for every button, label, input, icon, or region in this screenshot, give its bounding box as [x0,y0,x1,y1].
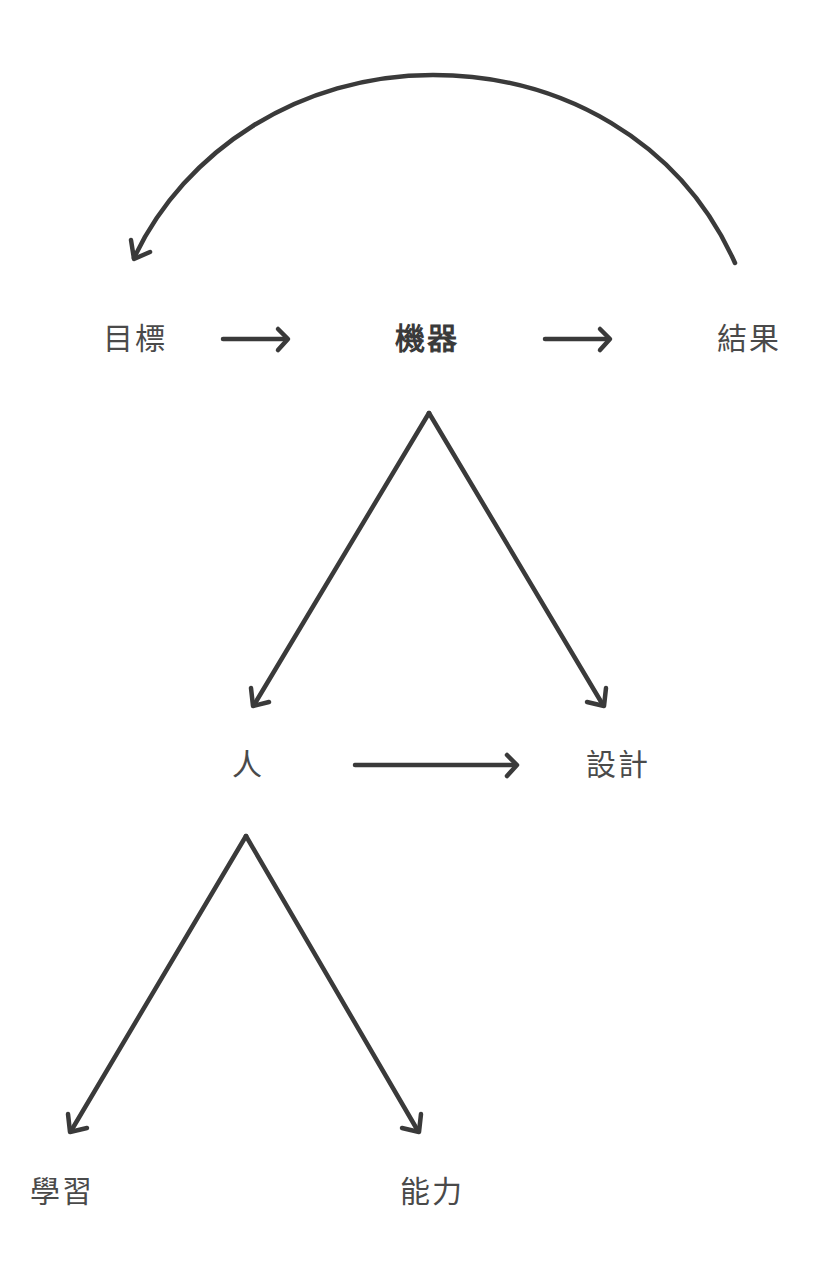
edge-person-to-design [355,755,517,776]
node-result: 結果 [717,324,781,354]
diagram-canvas: 目標 機器 結果 人 設計 學習 能力 [0,0,830,1275]
edge-person-to-ability [246,836,421,1132]
node-machine: 機器 [395,324,459,354]
edge-result-to-goal [131,75,735,263]
edge-goal-to-machine [223,329,288,350]
diagram-edges [0,0,830,1275]
edge-person-to-learning [68,836,246,1132]
edge-machine-to-person [251,413,429,706]
node-person: 人 [232,750,264,780]
node-ability: 能力 [400,1177,464,1207]
node-goal: 目標 [103,324,167,354]
edge-machine-to-design [429,413,606,706]
node-learning: 學習 [30,1177,94,1207]
node-design: 設計 [586,750,650,780]
edge-machine-to-result [545,329,610,350]
